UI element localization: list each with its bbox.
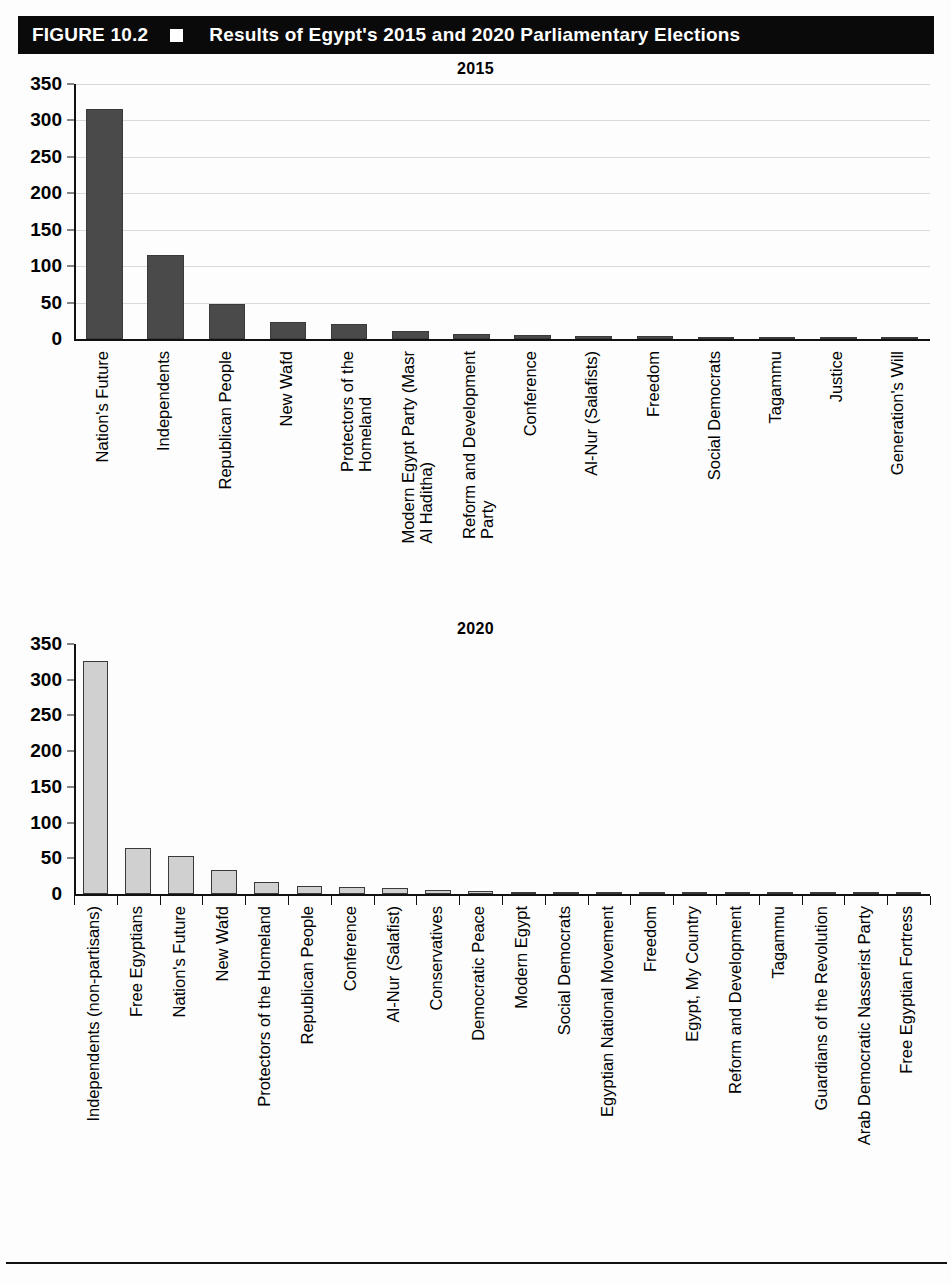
bar [639, 892, 665, 894]
bar-slot [808, 84, 869, 339]
x-axis-category-label: Free Egyptian Fortress [898, 906, 916, 1074]
bar [168, 856, 194, 894]
chart-2020-title: 2020 [0, 620, 951, 638]
x-axis-category-label: Modern Egypt [513, 906, 531, 1009]
bar-slot [319, 84, 380, 339]
chart-2015-plot-area: 050100150200250300350 [22, 84, 930, 339]
x-axis-category-label: Protectors of the Homeland [339, 351, 375, 472]
bar [682, 892, 708, 894]
bar [125, 848, 151, 894]
bar-slot [685, 84, 746, 339]
y-axis-tick-label: 250 [22, 146, 62, 168]
y-axis-tick-label: 350 [22, 633, 62, 655]
bar-slot [441, 84, 502, 339]
y-axis-tick [67, 84, 74, 85]
x-axis-line [74, 339, 930, 341]
bar-series [74, 644, 930, 894]
x-axis-tick [802, 896, 803, 905]
x-axis-category-label: Nation's Future [171, 906, 189, 1017]
x-axis-category-label: Conference [522, 351, 540, 436]
x-axis-category-label: Independents (non-partisans) [85, 906, 103, 1122]
white-square-icon [170, 29, 183, 42]
bar [83, 661, 109, 894]
y-axis-tick-label: 0 [22, 328, 62, 350]
bar [820, 337, 857, 339]
bar-slot [257, 84, 318, 339]
x-axis-category-label: New Wafd [278, 351, 296, 427]
x-axis-category-label: Generation's Will [889, 351, 907, 475]
x-axis-category-label: New Wafd [214, 906, 232, 982]
y-axis-tick [67, 822, 74, 823]
chart-2020-plot-area: 050100150200250300350 [22, 644, 930, 894]
bar-slot [588, 644, 631, 894]
bar-slot [416, 644, 459, 894]
x-axis-category-label: Tagammu [770, 906, 788, 978]
y-axis-tick [67, 302, 74, 303]
chart-2015-title: 2015 [0, 60, 951, 78]
x-axis-category-label: Egyptian National Movement [599, 906, 617, 1117]
bar [86, 109, 123, 339]
x-axis-tick [374, 896, 375, 905]
bar [211, 870, 237, 894]
bar-slot [245, 644, 288, 894]
x-axis-tick [588, 896, 589, 905]
x-axis-tick [331, 896, 332, 905]
x-axis-category-label: Tagammu [767, 351, 785, 423]
y-axis-tick [67, 644, 74, 645]
x-axis-tick [117, 896, 118, 905]
x-axis-category-label: Al-Nur (Salafists) [583, 351, 601, 476]
bar [853, 892, 879, 894]
y-axis-tick-label: 50 [22, 292, 62, 314]
x-axis-tick [545, 896, 546, 905]
x-axis-tick [630, 896, 631, 905]
bar-series [74, 84, 930, 339]
x-axis-category-label: Social Democrats [556, 906, 574, 1035]
y-axis-tick-label: 0 [22, 883, 62, 905]
bar-slot [624, 84, 685, 339]
x-axis-category-label: Republican People [217, 351, 235, 490]
y-axis-tick-label: 200 [22, 740, 62, 762]
x-axis-tick [74, 896, 75, 905]
figure-number-label: FIGURE 10.2 [32, 24, 148, 46]
y-axis-tick-label: 150 [22, 219, 62, 241]
y-axis-tick-label: 200 [22, 182, 62, 204]
x-axis-category-label: Freedom [642, 906, 660, 972]
bar [514, 335, 551, 339]
x-axis-category-label: Nation's Future [94, 351, 112, 462]
figure-header-bar: FIGURE 10.2 Results of Egypt's 2015 and … [18, 16, 934, 54]
y-axis-tick [67, 715, 74, 716]
y-axis-tick-label: 350 [22, 73, 62, 95]
figure-page: FIGURE 10.2 Results of Egypt's 2015 and … [0, 0, 951, 1283]
bar-slot [759, 644, 802, 894]
x-axis-category-label: Conference [342, 906, 360, 991]
bar-slot [196, 84, 257, 339]
bar-slot [869, 84, 930, 339]
figure-title: Results of Egypt's 2015 and 2020 Parliam… [209, 24, 740, 46]
y-axis-tick-label: 100 [22, 812, 62, 834]
x-axis-category-label: Social Democrats [706, 351, 724, 480]
bar [553, 892, 579, 894]
chart-2020: 2020 050100150200250300350 Independents … [0, 620, 951, 1156]
x-axis-tick [759, 896, 760, 905]
bar [881, 337, 918, 339]
x-axis-category-label: Al-Nur (Salafist) [385, 906, 403, 1022]
bar-slot [545, 644, 588, 894]
x-axis-tick [245, 896, 246, 905]
x-axis-category-label: Justice [828, 351, 846, 402]
x-axis-category-label: Reform and Development Party [461, 351, 497, 539]
bar-slot [74, 84, 135, 339]
x-axis-tick [288, 896, 289, 905]
y-axis-tick-label: 300 [22, 109, 62, 131]
y-axis-tick [67, 751, 74, 752]
bar [147, 255, 184, 340]
y-axis-tick [67, 679, 74, 680]
x-axis-tick [673, 896, 674, 905]
bar-slot [135, 84, 196, 339]
bar-slot [380, 84, 441, 339]
bar [637, 336, 674, 339]
y-axis-tick [67, 229, 74, 230]
x-axis-category-label: Independents [155, 351, 173, 451]
x-axis-tick [887, 896, 888, 905]
bar-slot [374, 644, 417, 894]
chart-2015: 2015 050100150200250300350 Nation's Futu… [0, 60, 951, 586]
